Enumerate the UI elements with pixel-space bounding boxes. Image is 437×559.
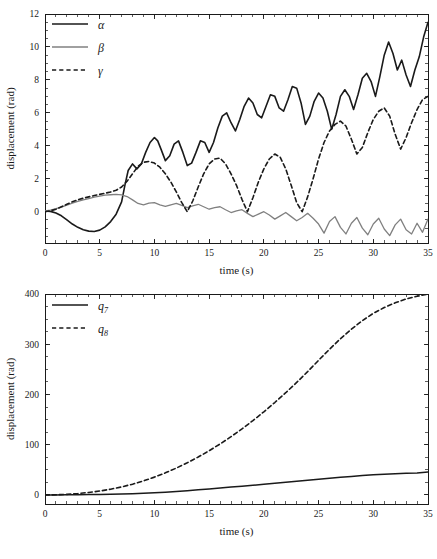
x-tick-label: 0 — [43, 509, 48, 519]
y-tick-label: 2 — [34, 174, 39, 184]
x-tick-label: 15 — [204, 509, 214, 519]
x-tick-label: 10 — [150, 248, 160, 258]
figure-container: 05101520253035024681012time (s)displacem… — [0, 0, 437, 559]
x-tick-label: 35 — [423, 248, 433, 258]
x-tick-label: 15 — [204, 248, 214, 258]
x-tick-label: 5 — [97, 248, 102, 258]
x-tick-label: 0 — [43, 248, 48, 258]
chart-panel-top: 05101520253035024681012time (s)displacem… — [0, 0, 437, 286]
legend-label: α — [98, 18, 105, 32]
x-tick-label: 25 — [314, 509, 324, 519]
legend-label: q8 — [98, 322, 108, 338]
x-tick-label: 30 — [369, 248, 379, 258]
x-tick-label: 5 — [97, 509, 102, 519]
x-tick-label: 20 — [259, 509, 269, 519]
x-axis-label: time (s) — [220, 264, 254, 277]
x-tick-label: 35 — [423, 509, 433, 519]
bottom-chart-svg: 051015202530350100200300400time (s)displ… — [0, 283, 437, 559]
legend-label: q7 — [98, 299, 109, 315]
top-chart-svg: 05101520253035024681012time (s)displacem… — [0, 0, 437, 286]
y-tick-label: 0 — [34, 207, 39, 217]
x-axis-label: time (s) — [220, 525, 254, 538]
y-tick-label: 6 — [34, 108, 39, 118]
y-tick-label: 8 — [34, 75, 39, 85]
x-tick-label: 30 — [369, 509, 379, 519]
legend-label: γ — [98, 64, 103, 78]
y-axis-label: displacement (rad) — [4, 87, 17, 169]
series-q7 — [45, 472, 428, 495]
x-tick-label: 20 — [259, 248, 269, 258]
y-tick-label: 300 — [25, 340, 40, 350]
x-tick-label: 25 — [314, 248, 324, 258]
chart-panel-bottom: 051015202530350100200300400time (s)displ… — [0, 283, 437, 559]
y-tick-label: 12 — [30, 9, 40, 19]
y-axis-label: displacement (rad) — [4, 358, 17, 440]
y-tick-label: 200 — [25, 390, 40, 400]
series-γ — [45, 96, 428, 211]
y-tick-label: 10 — [30, 42, 40, 52]
y-tick-label: 400 — [25, 289, 40, 299]
legend-label: β — [97, 41, 104, 55]
y-tick-label: 4 — [34, 141, 39, 151]
y-tick-label: 100 — [25, 440, 40, 450]
y-tick-label: 0 — [34, 490, 39, 500]
x-tick-label: 10 — [150, 509, 160, 519]
